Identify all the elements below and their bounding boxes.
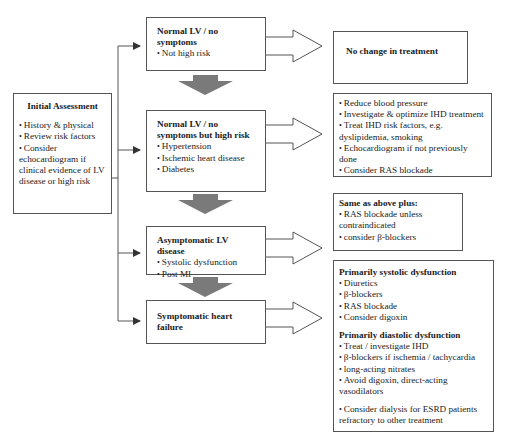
stage-item: Not high risk	[157, 48, 255, 59]
treatment-item: Treat / investigate IHD	[339, 341, 488, 352]
treatment-item: Reduce blood pressure	[339, 98, 486, 109]
initial-item: History & physical	[19, 120, 106, 131]
stage-title: Normal LV / no symptoms	[157, 26, 255, 48]
treatment-item: Diuretics	[339, 278, 488, 289]
treatment-symptomatic-box: Primarily systolic dysfunction Diuretics…	[333, 260, 494, 432]
initial-assessment-title: Initial Assessment	[19, 101, 106, 112]
initial-item: Consider echocardiogram if clinical evid…	[19, 143, 106, 188]
initial-item: Review risk factors	[19, 131, 106, 142]
stage-normal-lv-box: Normal LV / no symptoms Not high risk	[146, 17, 266, 71]
right-arrow-icon	[265, 232, 322, 264]
treatment-title: Same as above plus:	[339, 198, 457, 209]
down-arrow-icon	[178, 75, 233, 95]
treatment-item: Consider dialysis for ESRD patients refr…	[339, 404, 488, 426]
treatment-item: Treat IHD risk factors, e.g. dyslipidemi…	[339, 120, 486, 142]
treatment-item: Consider digoxin	[339, 312, 488, 323]
stage-high-risk-box: Normal LV / no symptoms but high risk Hy…	[146, 110, 266, 192]
initial-assessment-box: Initial Assessment History & physical Re…	[13, 93, 112, 214]
stage-item: Systolic dysfunction	[157, 257, 255, 268]
treatment-item: consider β-blockers	[339, 232, 457, 243]
treatment-title: No change in treatment	[346, 46, 455, 57]
treatment-item: Echocardiogram if not previously done	[339, 143, 486, 165]
right-arrow-icon	[265, 302, 322, 334]
treatment-item: RAS blockade unless contraindicated	[339, 209, 457, 231]
stage-item: Post MI	[157, 269, 255, 280]
down-arrow-icon	[178, 194, 233, 214]
stage-item: Diabetes	[157, 164, 255, 175]
treatment-high-risk-box: Reduce blood pressure Investigate & opti…	[333, 93, 492, 177]
section-title: Primarily systolic dysfunction	[339, 267, 488, 278]
section-title: Primarily diastolic dysfunction	[339, 330, 488, 341]
treatment-no-change-box: No change in treatment	[333, 31, 468, 84]
treatment-asymptomatic-box: Same as above plus: RAS blockade unless …	[333, 193, 463, 251]
stage-title: Symptomatic heart failure	[157, 311, 255, 333]
stage-asymptomatic-box: Asymptomatic LV disease Systolic dysfunc…	[146, 226, 266, 275]
right-arrow-icon	[265, 30, 322, 62]
treatment-item: Investigate & optimize IHD treatment	[339, 109, 486, 120]
treatment-item: Avoid digoxin, direct-acting vasodilator…	[339, 375, 488, 397]
stage-item: Hypertension	[157, 141, 255, 152]
stage-title: Asymptomatic LV disease	[157, 235, 255, 257]
stage-item: Ischemic heart disease	[157, 153, 255, 164]
right-arrow-icon	[265, 118, 322, 150]
stage-title: Normal LV / no symptoms but high risk	[157, 119, 255, 141]
treatment-item: long-acting nitrates	[339, 364, 488, 375]
treatment-item: RAS blockade	[339, 301, 488, 312]
treatment-item: β-blockers if ischemia / tachycardia	[339, 352, 488, 363]
stage-symptomatic-box: Symptomatic heart failure	[146, 300, 266, 344]
treatment-item: Consider RAS blockade	[339, 165, 486, 176]
treatment-item: β-blockers	[339, 289, 488, 300]
down-arrow-icon	[178, 277, 233, 297]
